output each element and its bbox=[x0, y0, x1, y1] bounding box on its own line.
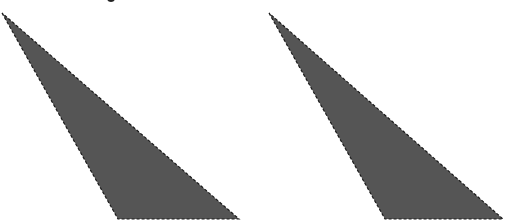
triangle-right bbox=[269, 13, 503, 219]
triangle-left bbox=[2, 13, 239, 219]
triangle-figure bbox=[0, 0, 507, 224]
